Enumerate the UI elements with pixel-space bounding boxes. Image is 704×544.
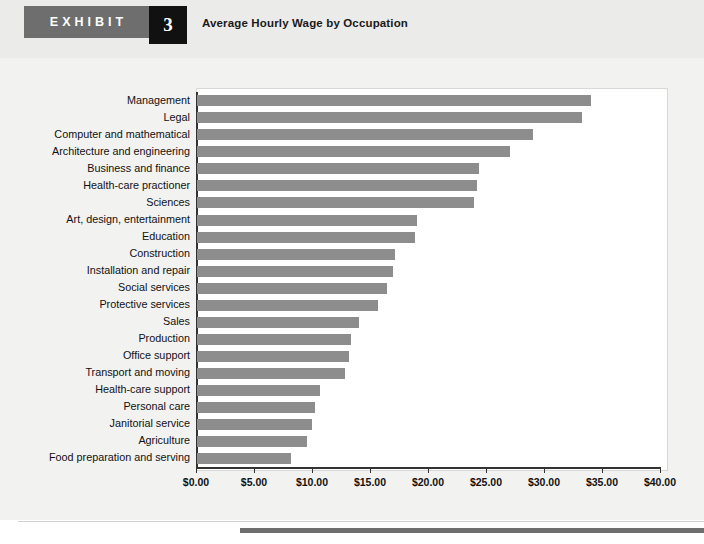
x-axis-tick (660, 467, 661, 473)
exhibit-tab: EXHIBIT (24, 6, 149, 38)
x-axis-tick (254, 467, 255, 473)
category-label: Construction (10, 247, 190, 259)
exhibit-header-band: EXHIBIT 3 Average Hourly Wage by Occupat… (0, 0, 704, 58)
category-label: Installation and repair (10, 264, 190, 276)
x-axis-tick-label: $25.00 (470, 476, 502, 488)
category-label: Janitorial service (10, 417, 190, 429)
bar (197, 197, 474, 208)
x-axis-tick-label: $5.00 (241, 476, 267, 488)
category-label: Agriculture (10, 434, 190, 446)
bar-chart-plot: $0.00$5.00$10.00$15.00$20.00$25.00$30.00… (196, 92, 660, 467)
bar (197, 334, 351, 345)
x-axis-tick (544, 467, 545, 473)
category-label: Computer and mathematical (10, 128, 190, 140)
bar (197, 266, 393, 277)
category-label: Health-care support (10, 383, 190, 395)
bar (197, 300, 378, 311)
category-label: Sales (10, 315, 190, 327)
x-axis-tick (486, 467, 487, 473)
page-title: Average Hourly Wage by Occupation (202, 17, 408, 29)
bar (197, 146, 510, 157)
footer-hairline (18, 521, 704, 522)
bar (197, 129, 533, 140)
x-axis-tick (196, 467, 197, 473)
x-axis-tick-label: $40.00 (644, 476, 676, 488)
category-label: Art, design, entertainment (10, 213, 190, 225)
bar (197, 402, 315, 413)
category-label: Legal (10, 111, 190, 123)
bar (197, 453, 291, 464)
x-axis-tick-label: $30.00 (528, 476, 560, 488)
exhibit-page: EXHIBIT 3 Average Hourly Wage by Occupat… (0, 0, 704, 544)
category-axis-labels: ManagementLegalComputer and mathematical… (10, 92, 190, 467)
x-axis-tick (312, 467, 313, 473)
category-label: Management (10, 94, 190, 106)
bar (197, 351, 349, 362)
bar (197, 368, 345, 379)
x-axis-tick (602, 467, 603, 473)
x-axis-tick-label: $35.00 (586, 476, 618, 488)
bar (197, 317, 359, 328)
x-axis-tick (428, 467, 429, 473)
bar (197, 419, 312, 430)
exhibit-number: 3 (149, 6, 187, 44)
category-label: Office support (10, 349, 190, 361)
bar (197, 249, 395, 260)
bar (197, 95, 591, 106)
category-label: Business and finance (10, 162, 190, 174)
bar (197, 163, 479, 174)
category-label: Food preparation and serving (10, 451, 190, 463)
category-label: Personal care (10, 400, 190, 412)
x-axis-tick-label: $10.00 (296, 476, 328, 488)
category-label: Social services (10, 281, 190, 293)
category-label: Education (10, 230, 190, 242)
exhibit-label: EXHIBIT (24, 6, 149, 38)
category-label: Production (10, 332, 190, 344)
x-axis-tick-label: $20.00 (412, 476, 444, 488)
footer-rule (240, 528, 704, 533)
bar (197, 283, 387, 294)
x-axis-tick-label: $15.00 (354, 476, 386, 488)
category-label: Health-care practioner (10, 179, 190, 191)
x-axis-tick-label: $0.00 (183, 476, 209, 488)
exhibit-number-box: 3 (149, 6, 187, 44)
category-label: Transport and moving (10, 366, 190, 378)
category-label: Sciences (10, 196, 190, 208)
bar (197, 215, 417, 226)
bar (197, 385, 320, 396)
bar (197, 112, 582, 123)
bar (197, 180, 477, 191)
x-axis-tick (370, 467, 371, 473)
bar (197, 232, 415, 243)
category-label: Protective services (10, 298, 190, 310)
category-label: Architecture and engineering (10, 145, 190, 157)
bar (197, 436, 307, 447)
